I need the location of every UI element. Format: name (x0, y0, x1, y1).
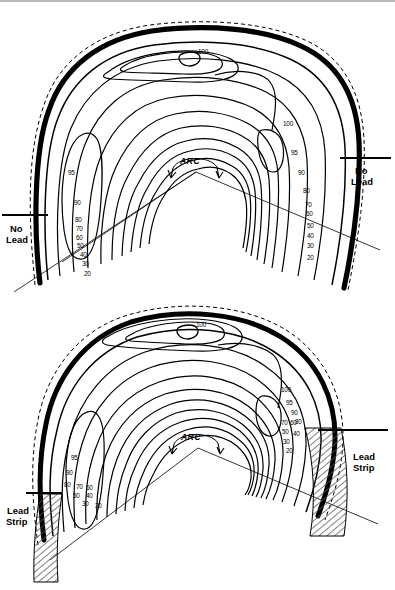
svg-text:40: 40 (307, 232, 314, 239)
svg-text:30: 30 (82, 500, 89, 507)
svg-text:20: 20 (307, 254, 314, 261)
svg-text:60: 60 (306, 210, 313, 217)
annotation-left-top: No Lead (6, 223, 28, 245)
annotation-right-bottom: Lead Strip (353, 451, 375, 473)
svg-text:70: 70 (281, 419, 288, 426)
svg-text:80: 80 (303, 187, 310, 194)
contour-line (74, 360, 293, 528)
contour-lobe-right-top (258, 130, 284, 172)
svg-text:60: 60 (290, 419, 297, 426)
svg-text:95: 95 (71, 454, 78, 461)
svg-text:70: 70 (76, 483, 83, 490)
svg-text:95: 95 (286, 399, 293, 406)
svg-text:70: 70 (76, 225, 83, 232)
contour-line (86, 376, 283, 524)
contour-labels-right-top: 100 95 90 80 70 60 50 40 30 20 (283, 120, 314, 261)
svg-text:50: 50 (77, 242, 84, 249)
svg-text:60: 60 (86, 484, 93, 491)
contour-diagram-svg: ARC 95 90 80 70 60 50 40 30 20 100 (0, 0, 395, 590)
arc-label-bottom: ARC (180, 432, 201, 442)
contour-line (149, 167, 247, 248)
svg-text:30: 30 (82, 260, 89, 267)
contour-line (120, 52, 222, 74)
annotation-right-top: No Lead (351, 165, 373, 187)
svg-text:30: 30 (283, 438, 290, 445)
contour-line (143, 435, 251, 505)
annotation-line-2: Lead (351, 176, 373, 187)
lead-strip-left (34, 494, 62, 582)
svg-text:90: 90 (298, 169, 305, 176)
annotation-line-2: Lead (6, 234, 28, 245)
contour-label-center-bottom: 100 (196, 321, 207, 328)
svg-text:40: 40 (86, 492, 93, 499)
svg-text:50: 50 (73, 492, 80, 499)
annotation-left-bottom: Lead Strip (6, 505, 29, 527)
svg-text:70: 70 (305, 201, 312, 208)
svg-text:20: 20 (84, 270, 91, 277)
contour-label-center-top: 100 (198, 48, 209, 55)
lead-strip-right (305, 428, 347, 536)
figure-root: ARC 95 90 80 70 60 50 40 30 20 100 (0, 0, 395, 590)
svg-text:90: 90 (74, 199, 81, 206)
top-rule (0, 0, 395, 2)
annotation-line-2: Strip (6, 516, 28, 527)
contour-peak-loop-bottom (177, 325, 198, 339)
annotation-line-1: Lead (7, 505, 29, 516)
contour-line (215, 71, 276, 130)
contour-line (112, 126, 270, 264)
annotation-line-1: No (10, 223, 23, 234)
svg-text:90: 90 (66, 469, 73, 476)
svg-text:80: 80 (75, 216, 82, 223)
arc-label-top: ARC (179, 156, 200, 166)
annotation-line-1: Lead (353, 451, 375, 462)
svg-text:20: 20 (286, 447, 293, 454)
svg-text:20: 20 (95, 502, 102, 509)
svg-text:60: 60 (76, 234, 83, 241)
contour-line (126, 322, 225, 344)
contour-line (101, 111, 279, 268)
contour-line (107, 400, 269, 517)
contour-labels-right-bottom: 100 95 90 80 70 60 50 40 30 20 (281, 386, 302, 454)
panel-bottom-lead-strip: ARC 95 90 80 70 60 50 40 30 20 (26, 306, 388, 582)
annotation-line-1: No (355, 165, 368, 176)
svg-text:50: 50 (282, 428, 289, 435)
annotation-line-2: Strip (353, 462, 375, 473)
contour-line (97, 389, 275, 520)
svg-text:95: 95 (291, 149, 298, 156)
svg-text:50: 50 (307, 222, 314, 229)
panel-top-no-lead: ARC 95 90 80 70 60 50 40 30 20 100 (2, 22, 391, 292)
svg-text:100: 100 (281, 386, 292, 393)
svg-text:40: 40 (293, 430, 300, 437)
svg-text:80: 80 (64, 481, 71, 488)
svg-text:100: 100 (283, 120, 294, 127)
svg-text:40: 40 (80, 251, 87, 258)
contour-line (72, 77, 307, 276)
svg-text:90: 90 (291, 409, 298, 416)
svg-text:95: 95 (68, 169, 75, 176)
svg-text:30: 30 (307, 242, 314, 249)
arc-indicator-bottom: ARC (169, 432, 224, 454)
